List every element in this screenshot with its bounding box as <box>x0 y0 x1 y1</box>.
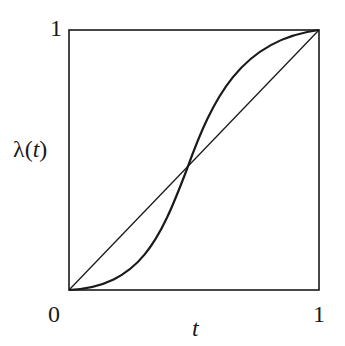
y-axis-paren-open: ( <box>25 136 33 162</box>
y-axis-paren-close: ) <box>39 136 47 162</box>
y-axis-label: λ(t) <box>13 137 47 161</box>
y-tick-1: 1 <box>50 16 62 40</box>
y-axis-lambda: λ <box>13 136 25 162</box>
identity-line <box>69 30 319 290</box>
chart-canvas <box>0 0 345 346</box>
x-tick-1: 1 <box>313 302 325 326</box>
x-tick-0: 0 <box>48 302 60 326</box>
x-axis-label: t <box>192 316 199 340</box>
